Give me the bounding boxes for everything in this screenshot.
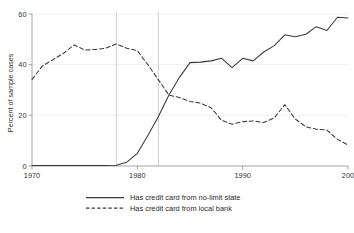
- line-chart: 197019801990200 0204060 Percent of sampl…: [0, 0, 354, 233]
- axes: [32, 14, 348, 166]
- legend-label-1: Has credit card from local bank: [130, 204, 232, 213]
- y-axis-title: Percent of sample cases: [6, 53, 15, 132]
- x-tick-label: 1970: [24, 171, 40, 180]
- series-line-1: [32, 44, 348, 145]
- reference-lines: [116, 12, 158, 166]
- chart-figure: 197019801990200 0204060 Percent of sampl…: [0, 0, 354, 233]
- chart-legend: Has credit card from no-limit stateHas c…: [86, 193, 240, 213]
- x-axis-tick-labels: 197019801990200: [24, 171, 354, 180]
- data-series: [32, 17, 348, 165]
- series-line-0: [32, 17, 348, 165]
- y-tick-label: 40: [18, 60, 26, 69]
- y-axis-tick-labels: 0204060: [18, 10, 26, 171]
- x-tick-label: 1980: [129, 171, 145, 180]
- grid-lines: [32, 14, 348, 115]
- y-tick-label: 60: [18, 10, 26, 19]
- x-tick-label: 200: [342, 171, 354, 180]
- y-tick-label: 20: [18, 111, 26, 120]
- tick-marks: [29, 14, 349, 170]
- legend-label-0: Has credit card from no-limit state: [130, 193, 240, 202]
- x-tick-label: 1990: [234, 171, 250, 180]
- y-tick-label: 0: [22, 162, 26, 171]
